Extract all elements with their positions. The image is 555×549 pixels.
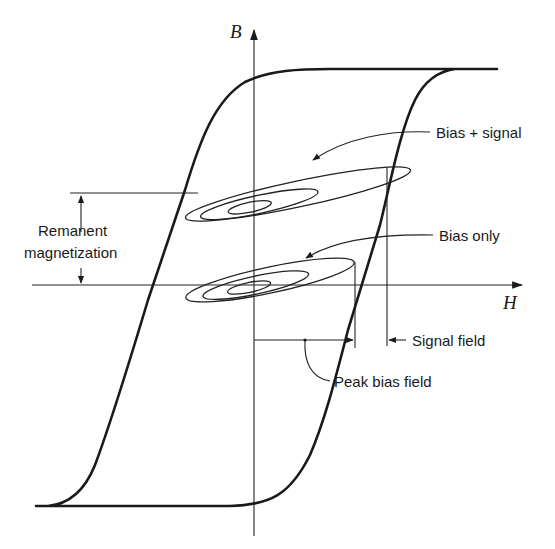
bias-only-leader-arrow [306,235,433,258]
bias-signal-leader-arrow [313,132,430,160]
h-axis-label: H [502,292,518,313]
b-axis-label: B [230,21,242,42]
peak-bias-field-label: Peak bias field [334,373,432,390]
remanent-label-line1: Remanent [38,222,108,239]
hysteresis-diagram: Remanent magnetization Bias + signal Bia… [0,0,555,549]
bias-signal-label: Bias + signal [436,124,521,141]
remanent-label-line2: magnetization [24,244,117,261]
bias-only-label: Bias only [439,227,500,244]
signal-field-dimension [387,168,406,346]
bias-only-minor-loops [183,249,357,310]
bias-plus-signal-minor-loops [183,157,413,230]
signal-field-label: Signal field [412,332,485,349]
